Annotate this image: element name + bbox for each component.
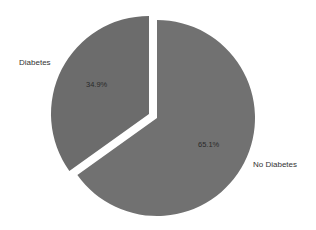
pct-diabetes: 34.9% xyxy=(86,80,108,89)
pct-no-diabetes: 65.1% xyxy=(198,140,220,149)
label-diabetes: Diabetes xyxy=(19,58,51,67)
label-no-diabetes: No Diabetes xyxy=(253,160,297,169)
pie-chart: Diabetes 34.9% 65.1% No Diabetes xyxy=(0,0,316,230)
